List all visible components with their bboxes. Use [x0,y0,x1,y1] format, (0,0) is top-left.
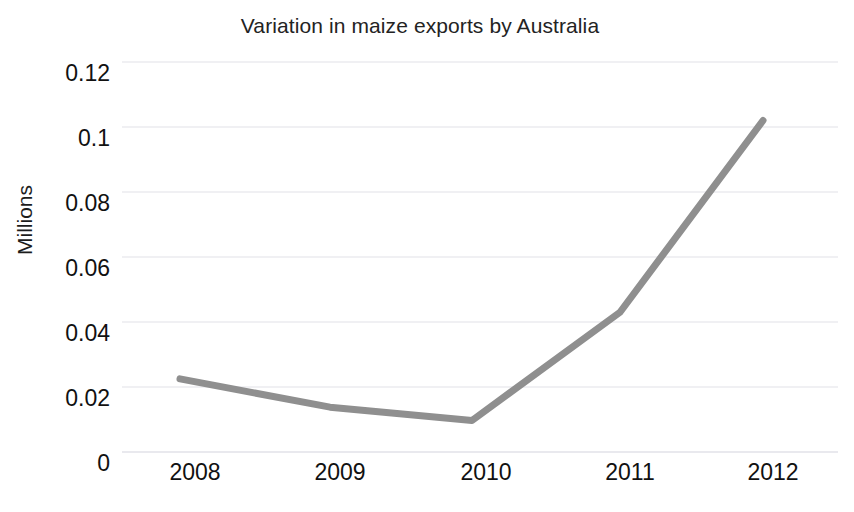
gridlines [122,62,838,452]
line-chart: Variation in maize exports by Australia … [0,0,854,512]
data-series-line [180,121,763,421]
plot-area [0,0,854,512]
